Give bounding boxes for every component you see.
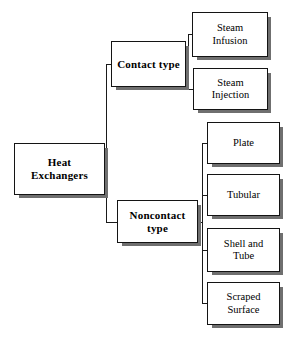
connector-contact-children-vertical bbox=[188, 34, 189, 89]
node-heat-exchangers[interactable]: Heat Exchangers bbox=[14, 143, 105, 195]
node-heat-exchangers-label: Heat Exchangers bbox=[28, 156, 91, 182]
node-shell-and-tube[interactable]: Shell and Tube bbox=[207, 228, 280, 272]
node-plate-label: Plate bbox=[230, 137, 257, 149]
node-steam-infusion-label: Steam Infusion bbox=[210, 22, 251, 47]
node-scraped-surface-label: Scraped Surface bbox=[224, 291, 264, 316]
node-contact-type[interactable]: Contact type bbox=[111, 41, 186, 87]
node-noncontact-type[interactable]: Noncontact type bbox=[117, 200, 198, 243]
node-steam-infusion[interactable]: Steam Infusion bbox=[192, 12, 268, 57]
node-scraped-surface[interactable]: Scraped Surface bbox=[207, 282, 280, 325]
node-shell-and-tube-label: Shell and Tube bbox=[221, 238, 266, 263]
connector-root-to-trunk bbox=[105, 169, 107, 170]
node-plate[interactable]: Plate bbox=[207, 122, 280, 164]
node-tubular-label: Tubular bbox=[224, 189, 263, 201]
node-contact-type-label: Contact type bbox=[114, 58, 183, 71]
connector-root-trunk-vertical bbox=[106, 64, 107, 223]
heat-exchangers-diagram: Heat Exchangers Contact type Noncontact … bbox=[0, 0, 299, 340]
node-noncontact-type-label: Noncontact type bbox=[127, 209, 189, 235]
node-steam-injection[interactable]: Steam Injection bbox=[193, 68, 268, 110]
node-steam-injection-label: Steam Injection bbox=[209, 77, 252, 102]
connector-noncontact-children-vertical bbox=[202, 143, 203, 304]
node-tubular[interactable]: Tubular bbox=[207, 174, 280, 216]
